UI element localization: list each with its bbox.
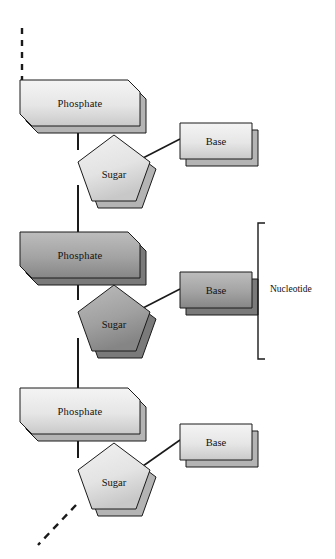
phosphate-label-bottom: Phosphate: [20, 388, 140, 434]
base-label-middle: Base: [180, 272, 252, 308]
base-label-top: Base: [180, 123, 252, 159]
sugar-label-middle: Sugar: [78, 285, 150, 351]
phosphate-label-middle: Phosphate: [20, 232, 140, 278]
phosphate-block-bottom[interactable]: Phosphate: [20, 388, 140, 434]
phosphate-label-top: Phosphate: [20, 80, 140, 126]
phosphate-block-top[interactable]: Phosphate: [20, 80, 140, 126]
base-block-middle[interactable]: Base: [180, 272, 252, 308]
base-block-bottom[interactable]: Base: [180, 424, 252, 460]
base-label-bottom: Base: [180, 424, 252, 460]
sugar-label-bottom: Sugar: [78, 443, 150, 509]
phosphate-block-middle[interactable]: Phosphate: [20, 232, 140, 278]
sugar-block-bottom[interactable]: Sugar: [78, 443, 150, 509]
nucleotide-label: Nucleotide: [270, 284, 312, 294]
sugar-label-top: Sugar: [78, 135, 150, 201]
sugar-block-middle[interactable]: Sugar: [78, 285, 150, 351]
nucleotide-diagram: Phosphate Sugar: [0, 0, 335, 559]
strand-continuation-bottom: [38, 505, 76, 545]
nucleotide-bracket: [252, 222, 266, 360]
sugar-block-top[interactable]: Sugar: [78, 135, 150, 201]
base-block-top[interactable]: Base: [180, 123, 252, 159]
